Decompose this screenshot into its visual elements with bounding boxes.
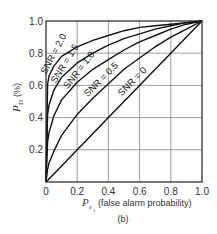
y-axis-symbol: P [10,105,22,113]
figure-caption: (b) [118,214,129,224]
y-tick-label: 0.8 [29,48,43,59]
y-axis-subscript: D [17,100,25,105]
x-axis-text: (false alarm probability) [98,198,192,208]
x-axis-label: P ε 1 (false alarm probability) [81,196,192,213]
x-tick-labels: 00.20.40.60.81.0 [43,186,209,197]
x-axis-symbol: P [81,196,89,208]
x-tick-label: 0.4 [101,186,115,197]
x-tick-label: 0.6 [133,186,147,197]
x-tick-label: 1.0 [195,186,209,197]
y-tick-label: 0.2 [29,144,43,155]
y-axis-label: P D (%) [10,83,25,113]
y-axis-unit: (%) [12,83,22,97]
y-tick-label: 1.0 [29,16,43,27]
x-tick-label: 0.8 [164,186,178,197]
y-tick-label: 0.6 [29,80,43,91]
x-axis-subsubscript: 1 [93,208,96,213]
roc-chart: 00.20.40.60.81.0 0.20.40.60.81.0 SNR = 2… [0,0,217,234]
x-axis-subscript: ε [89,203,92,211]
y-tick-label: 0.4 [29,112,43,123]
y-tick-labels: 0.20.40.60.81.0 [29,16,43,156]
x-tick-label: 0 [43,186,49,197]
